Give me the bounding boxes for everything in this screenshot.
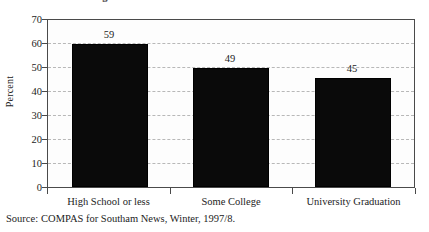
chart-title-clipped: ...that taxes are too high xyxy=(0,0,429,5)
x-tick-label-some-college: Some College xyxy=(170,196,292,208)
x-tick-mark-1 xyxy=(170,188,171,194)
bar-value-some-college: 49 xyxy=(192,53,268,64)
y-tick-label-50: 50 xyxy=(2,63,42,73)
y-tick-label-20: 20 xyxy=(2,135,42,145)
x-tick-label-university-graduation: University Graduation xyxy=(292,196,415,208)
chart-figure: ...that taxes are too high Percent 70 60… xyxy=(0,0,429,232)
bar-value-high-school-or-less: 59 xyxy=(71,29,147,40)
bar-high-school-or-less[interactable] xyxy=(72,44,148,187)
bar-some-college[interactable] xyxy=(193,68,269,187)
chart-title-text: ...that taxes are too high xyxy=(0,0,429,3)
plot-area xyxy=(47,19,415,188)
y-tick-label-30: 30 xyxy=(2,111,42,121)
y-tick-label-0: 0 xyxy=(2,183,42,193)
x-tick-label-high-school-or-less: High School or less xyxy=(47,196,170,208)
bar-value-university-graduation: 45 xyxy=(314,63,390,74)
source-note: Source:COMPAS for Southam News, Winter, … xyxy=(6,213,235,224)
y-tick-label-10: 10 xyxy=(2,159,42,169)
source-text: COMPAS for Southam News, Winter, 1997/8. xyxy=(41,213,235,224)
source-label: Source: xyxy=(6,213,38,224)
bar-university-graduation[interactable] xyxy=(315,78,391,187)
y-tick-label-60: 60 xyxy=(2,39,42,49)
y-tick-label-40: 40 xyxy=(2,87,42,97)
x-tick-mark-right xyxy=(415,188,416,194)
x-tick-mark-2 xyxy=(292,188,293,194)
y-tick-label-70: 70 xyxy=(2,15,42,25)
x-tick-mark-left xyxy=(47,188,48,194)
